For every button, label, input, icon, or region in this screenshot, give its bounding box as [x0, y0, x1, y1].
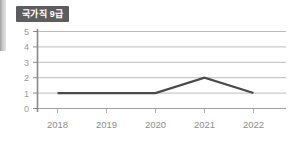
x-tick-label: 2022	[243, 119, 264, 130]
x-tick-label: 2020	[145, 119, 166, 130]
y-tick-label: 4	[24, 42, 29, 52]
x-tick-label: 2019	[96, 119, 117, 130]
line-chart: 5 4 3 2 1 0 2018 2019 2020 2021 2022	[0, 0, 293, 143]
gridlines	[37, 32, 286, 109]
x-tick-label: 2018	[47, 119, 68, 130]
x-tick-label: 2021	[194, 119, 215, 130]
y-tick-label: 3	[24, 58, 29, 68]
y-tick-label: 0	[24, 104, 29, 114]
y-tick-label: 1	[24, 89, 29, 99]
x-tick-marks	[58, 109, 254, 114]
y-tick-label: 5	[24, 27, 29, 37]
data-series-line	[58, 78, 254, 93]
y-tick-label: 2	[24, 73, 29, 83]
y-tick-marks	[33, 32, 37, 109]
